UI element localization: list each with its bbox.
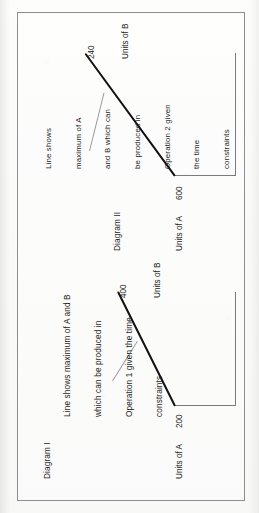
diagram-2-annotation-line-4: be produced in	[133, 49, 143, 169]
diagram-1-title: Diagram I	[43, 442, 53, 479]
diagram-2-y-axis	[174, 175, 236, 176]
diagram-2-annotation-line-2: maximum of A	[74, 49, 84, 169]
diagram-1-annotation-line-4: constraints	[155, 287, 165, 417]
diagram-1-annotation-line-2: which can be produced in	[94, 287, 104, 417]
diagram-1-x-axis	[235, 292, 236, 406]
diagram-1: Diagram I Units of A 200 400 Units of B …	[17, 261, 245, 501]
diagram-2-annotation-line-3: and B which can	[103, 49, 113, 169]
diagram-2-annotation-line-1: Line shows	[44, 49, 54, 169]
diagram-2-annotation: Line shows maximum of A and B which can …	[24, 49, 252, 169]
diagram-1-annotation-line-1: Line shows maximum of A and B	[63, 287, 73, 417]
rotated-sheet-wrapper: Diagram I Units of A 200 400 Units of B …	[0, 0, 259, 513]
scanned-page: Diagram I Units of A 200 400 Units of B …	[0, 0, 259, 513]
diagram-1-y-axis-label: Units of A	[175, 444, 185, 479]
diagram-2: Diagram II Units of A 600 240 Units of B…	[17, 12, 245, 261]
diagram-2-annotation-line-7: constraints	[222, 49, 232, 169]
diagram-2-y-axis-value: 600	[175, 186, 185, 200]
diagram-1-annotation: Line shows maximum of A and B which can …	[43, 287, 186, 417]
sheet: Diagram I Units of A 200 400 Units of B …	[0, 0, 259, 513]
diagram-2-title: Diagram II	[113, 212, 123, 251]
diagram-2-annotation-line-5: Operation 2 given	[163, 49, 173, 169]
diagram-2-y-axis-label: Units of A	[175, 216, 185, 251]
diagram-2-annotation-line-6: the time	[192, 49, 202, 169]
diagram-1-annotation-line-3: Operation 1 given the time	[125, 287, 135, 417]
